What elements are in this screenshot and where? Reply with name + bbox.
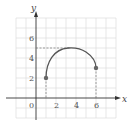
endpoint-start-dot [44,76,48,80]
axes [6,11,121,120]
endpoint-end-dot [94,66,98,70]
x-tick-4: 4 [74,101,79,110]
y-tick-2: 2 [29,74,34,83]
x-tick-6: 6 [94,101,99,110]
origin-label: 0 [29,101,34,110]
function-graph: y x 0 2 4 6 2 4 6 [0,0,128,129]
x-tick-2: 2 [54,101,59,110]
x-axis-arrow-icon [115,96,121,100]
function-curve [46,48,96,78]
y-tick-6: 6 [29,34,34,43]
y-axis-label: y [30,3,37,13]
y-tick-4: 4 [29,54,34,63]
x-axis-label: x [122,94,127,104]
